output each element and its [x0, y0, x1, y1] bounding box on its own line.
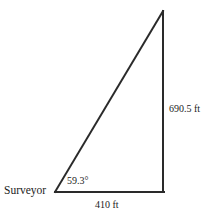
surveyor-vertex-label: Surveyor: [4, 185, 46, 197]
angle-measure-label: 59.3°: [67, 176, 89, 186]
vertical-side-length-label: 690.5 ft: [169, 104, 200, 114]
hypotenuse-line: [55, 11, 163, 192]
horizontal-side-length-label: 410 ft: [95, 200, 119, 210]
survey-triangle-diagram: Surveyor 59.3° 690.5 ft 410 ft: [0, 0, 207, 218]
